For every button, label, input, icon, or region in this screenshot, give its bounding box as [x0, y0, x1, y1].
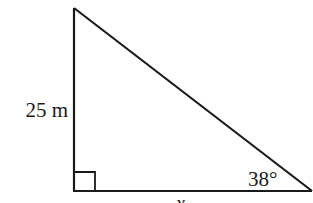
vertical-side-label: 25 m	[25, 98, 68, 122]
base-side-label: x	[175, 192, 185, 203]
right-triangle-diagram: 25 m 38° x	[0, 0, 313, 203]
angle-label: 38°	[248, 167, 277, 191]
